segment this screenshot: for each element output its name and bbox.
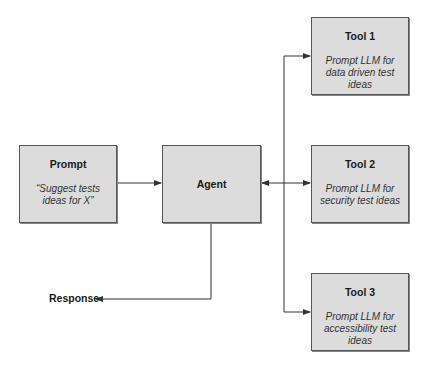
tool1-title: Tool 1 bbox=[345, 30, 375, 42]
prompt-title: Prompt bbox=[50, 158, 87, 170]
tool3-title: Tool 3 bbox=[345, 286, 375, 298]
tool2-node: Tool 2 Prompt LLM for security test idea… bbox=[311, 145, 409, 223]
prompt-desc: “Suggest tests ideas for X” bbox=[20, 183, 116, 207]
tool3-node: Tool 3 Prompt LLM for accessibility test… bbox=[311, 273, 409, 351]
prompt-node: Prompt “Suggest tests ideas for X” bbox=[19, 145, 117, 223]
tool3-desc: Prompt LLM for accessibility test ideas bbox=[312, 311, 408, 347]
tool2-title: Tool 2 bbox=[345, 158, 375, 170]
agent-node: Agent bbox=[162, 145, 261, 223]
tool1-desc: Prompt LLM for data driven test ideas bbox=[312, 55, 408, 91]
edge-agent-response bbox=[96, 223, 211, 299]
tool2-desc: Prompt LLM for security test ideas bbox=[312, 183, 408, 207]
tool1-node: Tool 1 Prompt LLM for data driven test i… bbox=[311, 17, 409, 95]
response-label: Response bbox=[49, 292, 99, 304]
agent-title: Agent bbox=[197, 178, 227, 190]
